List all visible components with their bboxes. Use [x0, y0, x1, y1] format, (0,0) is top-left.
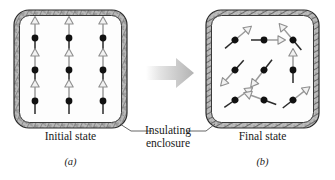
insulating-enclosure-label: Insulating enclosure [131, 124, 205, 150]
panel-letter-b: (b) [206, 156, 319, 168]
final-state-label: Final state [206, 130, 319, 143]
initial-state-label: Initial state [14, 130, 127, 143]
panel-letter-a: (a) [14, 156, 127, 168]
enclosure-label-line1: Insulating [131, 124, 205, 137]
enclosure-label-line2: enclosure [131, 137, 205, 150]
figure-canvas [0, 0, 335, 180]
physics-figure: Initial state Final state Insulating enc… [0, 0, 335, 180]
transition-arrow [146, 58, 194, 88]
